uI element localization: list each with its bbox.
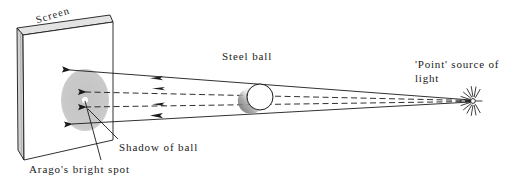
point-source-starburst <box>460 86 482 116</box>
label-shadow-of-ball: Shadow of ball <box>119 141 198 155</box>
ray-arrowheads <box>150 76 165 118</box>
arrowhead-lower-outer <box>150 113 163 118</box>
light-ray-spoke <box>474 87 476 98</box>
light-ray-spoke <box>474 105 476 116</box>
light-ray-spoke <box>475 104 480 113</box>
arrowhead-upper-inner <box>152 87 165 90</box>
label-point-source: 'Point' source of light <box>415 58 515 86</box>
light-source-core <box>471 99 476 104</box>
arrowhead-lower-inner <box>152 103 165 106</box>
arago-bright-spot-core <box>84 99 87 102</box>
arago-bright-spot-diagram: Screen Steel ball 'Point' source of ligh… <box>0 0 521 186</box>
light-ray-spoke <box>471 86 473 97</box>
steel-ball-group <box>238 84 273 114</box>
diagram-canvas <box>0 0 521 186</box>
label-arago-bright-spot: Arago's bright spot <box>29 163 130 177</box>
light-ray-spoke <box>475 89 480 98</box>
shadow-disc-group <box>61 69 109 131</box>
lower-outer-ray <box>72 102 471 124</box>
light-ray-spoke <box>471 105 473 116</box>
label-steel-ball: Steel ball <box>222 50 272 64</box>
upper-inner-ray <box>86 92 471 101</box>
lower-inner-ray <box>86 102 471 108</box>
steel-ball <box>247 84 273 110</box>
